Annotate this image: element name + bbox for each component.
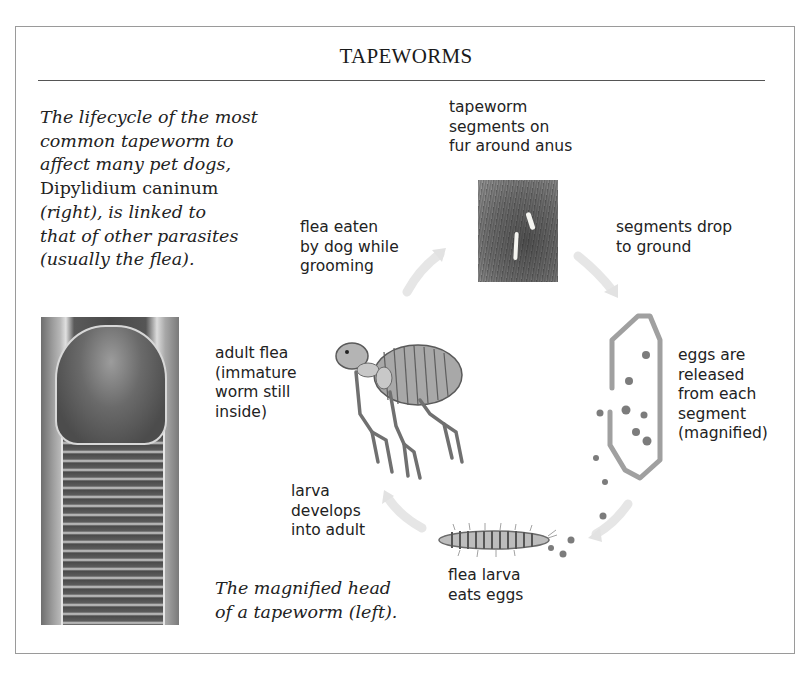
- cycle-arrow-icon: [578, 256, 618, 298]
- stage-label-line: into adult: [291, 521, 365, 541]
- stage-label-segments-drop: segments drop to ground: [616, 218, 732, 257]
- stage-label-line: grooming: [300, 257, 399, 277]
- dog-fur-patch: [478, 180, 558, 282]
- stage-label-line: segment: [678, 405, 768, 425]
- stage-label-segments-on-fur: tapeworm segments on fur around anus: [449, 98, 572, 157]
- stage-label-line: worm still: [215, 383, 297, 403]
- stage-label-line: flea larva: [448, 566, 523, 586]
- stage-label-larva-develops: larva develops into adult: [291, 482, 365, 541]
- stage-label-line: segments drop: [616, 218, 732, 238]
- stage-label-line: develops: [291, 502, 365, 522]
- stage-label-line: adult flea: [215, 344, 297, 364]
- stage-label-line: by dog while: [300, 238, 399, 258]
- stage-label-flea-eaten: flea eaten by dog while grooming: [300, 218, 399, 277]
- stage-label-line: (immature: [215, 364, 297, 384]
- stage-label-line: inside): [215, 403, 297, 423]
- stage-label-line: flea eaten: [300, 218, 399, 238]
- stage-label-line: from each: [678, 385, 768, 405]
- stage-label-eggs-released: eggs are released from each segment (mag…: [678, 346, 768, 444]
- stage-label-line: to ground: [616, 238, 732, 258]
- stage-label-line: larva: [291, 482, 365, 502]
- tapeworm-segment-on-fur: [525, 212, 535, 231]
- tapeworm-segment-on-fur: [513, 232, 518, 260]
- stage-label-adult-flea: adult flea (immature worm still inside): [215, 344, 297, 422]
- lifecycle-illustration: [0, 0, 812, 684]
- adult-flea-icon: [336, 343, 462, 478]
- stage-label-line: (magnified): [678, 424, 768, 444]
- cycle-arrow-icon: [382, 490, 422, 528]
- stage-label-line: released: [678, 366, 768, 386]
- stage-label-line: fur around anus: [449, 137, 572, 157]
- stage-label-line: eats eggs: [448, 586, 523, 606]
- cycle-arrow-icon: [588, 504, 628, 542]
- tapeworm-segment-icon: [610, 316, 660, 478]
- cycle-arrow-icon: [407, 248, 446, 292]
- stage-label-line: tapeworm: [449, 98, 572, 118]
- stage-label-line: eggs are: [678, 346, 768, 366]
- stage-label-larva-eats-eggs: flea larva eats eggs: [448, 566, 523, 605]
- flea-larva-icon: [439, 523, 557, 557]
- stage-label-line: segments on: [449, 118, 572, 138]
